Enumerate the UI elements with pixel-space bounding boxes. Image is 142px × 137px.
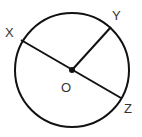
circle-diagram: X Y Z O [0,0,142,137]
label-x: X [5,25,14,40]
radius-oy [72,27,111,70]
center-point [69,67,75,73]
label-y: Y [112,8,121,23]
label-o: O [61,80,71,95]
label-z: Z [124,101,132,116]
